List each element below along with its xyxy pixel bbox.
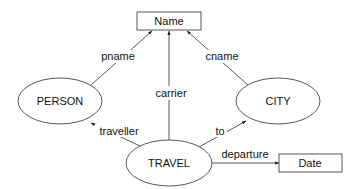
to-label: to: [215, 125, 224, 137]
edge-traveller: traveller: [91, 123, 143, 146]
traveller-label: traveller: [99, 125, 138, 137]
node-name: Name: [137, 12, 201, 30]
carrier-label: carrier: [155, 87, 187, 99]
edge-carrier: carrier: [151, 31, 191, 140]
node-person: PERSON: [18, 78, 102, 124]
person-label: PERSON: [37, 95, 84, 107]
edge-cname: cname: [187, 31, 248, 85]
departure-label: departure: [221, 148, 268, 160]
cname-label: cname: [205, 50, 238, 62]
pname-label: pname: [101, 50, 135, 62]
city-label: CITY: [265, 95, 291, 107]
node-city: CITY: [236, 78, 320, 124]
name-label: Name: [154, 15, 183, 27]
edge-pname: pname: [91, 31, 152, 85]
er-diagram: pname cname carrier traveller to departu…: [0, 0, 360, 189]
date-label: Date: [298, 157, 321, 169]
travel-label: TRAVEL: [148, 157, 190, 169]
node-travel: TRAVEL: [126, 140, 212, 186]
diagram-canvas: pname cname carrier traveller to departu…: [0, 0, 360, 189]
node-date: Date: [279, 154, 342, 172]
edge-to: to: [199, 121, 246, 147]
edge-departure: departure: [212, 148, 279, 163]
